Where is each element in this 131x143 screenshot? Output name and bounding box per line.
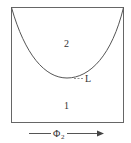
axis-symbol: Φ xyxy=(53,128,60,139)
region-2-label: 2 xyxy=(64,38,69,49)
region-1-label: 1 xyxy=(64,100,69,111)
phase-diagram: L 2 1 Φ 2 xyxy=(0,0,131,143)
curve-label: L xyxy=(85,73,91,84)
arrow-head-icon xyxy=(97,131,104,137)
axis-subscript: 2 xyxy=(61,133,65,141)
